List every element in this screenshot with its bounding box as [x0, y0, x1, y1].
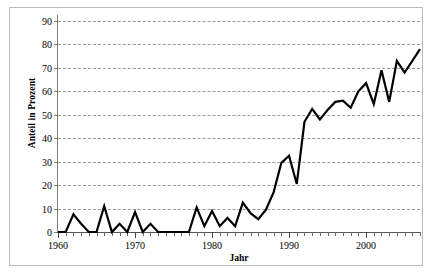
x-tick-mark-1991 [297, 232, 298, 236]
x-tick-mark-2006 [412, 232, 413, 236]
x-tick-mark-1987 [266, 232, 267, 236]
x-tick-mark-1985 [251, 232, 252, 236]
x-tick-label-1980: 1980 [202, 240, 222, 251]
x-tick-mark-1996 [335, 232, 336, 236]
y-tick-label-40: 40 [42, 133, 52, 144]
x-tick-label-1960: 1960 [48, 240, 68, 251]
x-tick-mark-1997 [343, 232, 344, 236]
x-tick-label-1970: 1970 [125, 240, 145, 251]
x-tick-mark-1994 [320, 232, 321, 236]
x-tick-mark-2000 [366, 232, 367, 238]
x-tick-label-2000: 2000 [356, 240, 376, 251]
x-tick-mark-1983 [235, 232, 236, 236]
data-series-line [58, 21, 420, 232]
x-tick-mark-1984 [243, 232, 244, 236]
x-tick-mark-1968 [120, 232, 121, 236]
x-tick-mark-1966 [104, 232, 105, 236]
y-tick-label-10: 10 [42, 203, 52, 214]
x-tick-mark-1986 [258, 232, 259, 236]
y-tick-label-70: 70 [42, 62, 52, 73]
y-tick-label-80: 80 [42, 39, 52, 50]
x-tick-mark-1963 [81, 232, 82, 236]
x-tick-mark-1979 [204, 232, 205, 236]
x-tick-mark-1992 [304, 232, 305, 236]
x-tick-mark-1998 [351, 232, 352, 236]
x-tick-mark-2001 [374, 232, 375, 236]
x-tick-mark-1981 [220, 232, 221, 236]
x-tick-mark-1988 [274, 232, 275, 236]
plot-area: 0102030405060708090 19601970198019902000 [58, 21, 420, 232]
y-tick-label-60: 60 [42, 86, 52, 97]
y-tick-label-0: 0 [47, 227, 52, 238]
x-tick-mark-1978 [197, 232, 198, 236]
x-tick-mark-2004 [397, 232, 398, 236]
x-tick-mark-2005 [405, 232, 406, 236]
y-tick-label-50: 50 [42, 109, 52, 120]
x-tick-mark-1995 [328, 232, 329, 236]
x-tick-mark-2003 [389, 232, 390, 236]
x-tick-mark-1962 [73, 232, 74, 236]
x-axis-title: Jahr [58, 253, 420, 263]
x-tick-mark-1982 [227, 232, 228, 236]
x-tick-mark-1980 [212, 232, 213, 238]
x-tick-mark-1990 [289, 232, 290, 238]
x-tick-mark-1989 [281, 232, 282, 236]
x-tick-mark-2002 [381, 232, 382, 236]
x-tick-mark-1999 [358, 232, 359, 236]
x-tick-mark-1972 [150, 232, 151, 236]
x-tick-label-1990: 1990 [279, 240, 299, 251]
y-tick-label-90: 90 [42, 16, 52, 27]
y-tick-label-30: 30 [42, 156, 52, 167]
y-tick-label-20: 20 [42, 180, 52, 191]
y-axis-title: Anteil in Prozent [27, 53, 37, 173]
x-tick-mark-1993 [312, 232, 313, 236]
x-tick-mark-1970 [135, 232, 136, 238]
chart-figure: Anteil in Prozent 0102030405060708090 19… [0, 0, 437, 280]
x-tick-mark-2007 [420, 232, 421, 236]
